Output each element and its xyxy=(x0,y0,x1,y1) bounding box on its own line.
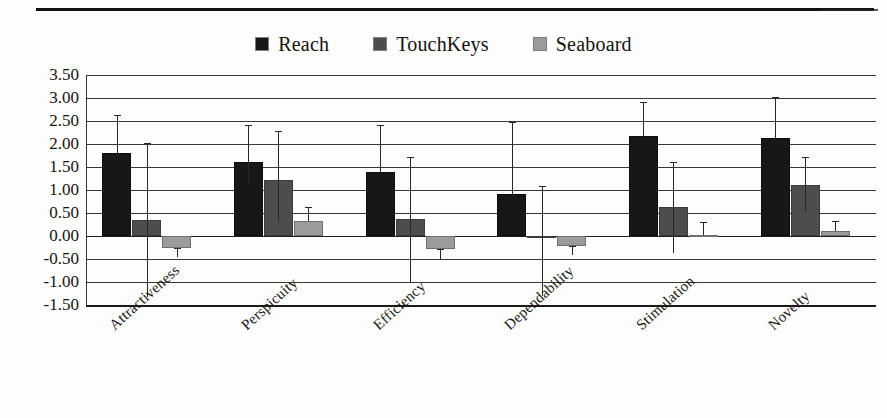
error-bar-cap xyxy=(377,125,384,126)
bar-seaboard-novelty xyxy=(821,231,850,236)
x-axis-label-novelty: Novelty xyxy=(765,288,813,334)
x-axis-label-perspicuity: Perspicuity xyxy=(238,274,301,333)
bar-seaboard-perspicuity xyxy=(294,221,323,236)
bar-reach-stimulation xyxy=(629,136,658,236)
error-bar-cap xyxy=(539,186,546,187)
error-bar xyxy=(177,248,178,257)
x-axis-label-stimulation: Stimulation xyxy=(633,273,698,334)
error-bar xyxy=(440,249,441,259)
error-bar xyxy=(542,186,543,295)
error-bar xyxy=(805,157,806,212)
error-bar-cap xyxy=(245,125,252,126)
error-bar-cap xyxy=(174,248,181,249)
x-axis-label-attractiveness: Attractiveness xyxy=(106,262,183,334)
bar-reach-efficiency xyxy=(366,172,395,236)
x-axis-label-dependability: Dependability xyxy=(501,262,577,333)
error-bar-cap xyxy=(700,222,707,223)
error-bar xyxy=(147,143,148,297)
bar-seaboard-dependability xyxy=(557,236,586,246)
error-bar xyxy=(512,122,513,194)
error-bar-cap xyxy=(275,131,282,132)
error-bar-cap xyxy=(305,207,312,208)
chart-plot-area: 3.503.002.502.001.501.000.500.00-0.50-1.… xyxy=(0,0,887,418)
chart-bars-layer: AttractivenessPerspicuityEfficiencyDepen… xyxy=(0,0,887,418)
error-bar xyxy=(278,131,279,222)
error-bar-cap xyxy=(144,143,151,144)
error-bar xyxy=(835,221,836,231)
error-bar-cap xyxy=(569,246,576,247)
bar-seaboard-stimulation xyxy=(689,235,718,237)
error-bar xyxy=(117,115,118,153)
bar-reach-dependability xyxy=(497,194,526,236)
bar-seaboard-efficiency xyxy=(426,236,455,249)
bar-seaboard-attractiveness xyxy=(162,236,191,248)
error-bar xyxy=(248,125,249,183)
figure-canvas: ReachTouchKeysSeaboard 3.503.002.502.001… xyxy=(0,0,887,418)
error-bar xyxy=(380,125,381,172)
error-bar-cap xyxy=(832,221,839,222)
error-bar-cap xyxy=(407,157,414,158)
error-bar xyxy=(703,222,704,235)
error-bar-cap xyxy=(437,249,444,250)
error-bar-cap xyxy=(509,122,516,123)
error-bar xyxy=(775,97,776,137)
x-axis-label-efficiency: Efficiency xyxy=(370,278,429,334)
error-bar-cap xyxy=(772,97,779,98)
error-bar xyxy=(410,157,411,283)
error-bar xyxy=(308,207,309,220)
bar-reach-novelty xyxy=(761,138,790,236)
bar-reach-attractiveness xyxy=(102,153,131,236)
error-bar xyxy=(572,246,573,255)
error-bar-cap xyxy=(114,115,121,116)
error-bar-cap xyxy=(670,162,677,163)
error-bar-cap xyxy=(640,102,647,103)
error-bar xyxy=(643,102,644,136)
error-bar-cap xyxy=(802,157,809,158)
error-bar xyxy=(673,162,674,253)
